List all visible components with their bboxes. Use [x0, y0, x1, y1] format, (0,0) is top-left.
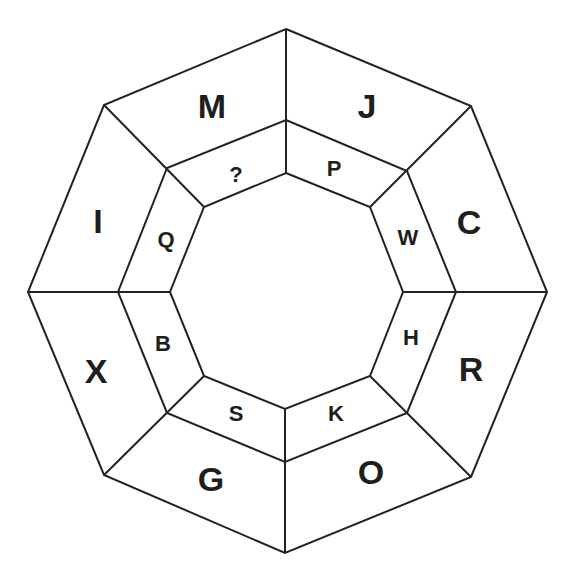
inner-cell-left-upper: Q — [157, 227, 174, 252]
outer-cell-top-right: J — [358, 87, 377, 125]
inner-cell-bottom-right: K — [328, 401, 344, 426]
inner-cell-top-left-missing: ? — [229, 162, 242, 187]
inner-cell-top-right: P — [327, 156, 342, 181]
outer-cell-left-upper: I — [93, 202, 102, 240]
outer-cell-left-lower: X — [85, 352, 108, 390]
inner-cell-right-lower: H — [403, 325, 419, 350]
inner-octagon — [170, 173, 403, 409]
inner-cell-bottom-left: S — [229, 401, 244, 426]
octagon-puzzle-diagram: M J C R O G X I ? P W H K S B Q — [0, 0, 577, 574]
outer-cell-bottom-right: O — [358, 453, 384, 491]
outer-cell-right-lower: R — [459, 350, 484, 388]
outer-cell-bottom-left: G — [198, 460, 224, 498]
radial-dividers — [28, 29, 547, 553]
inner-cell-left-lower: B — [155, 331, 171, 356]
inner-cell-right-upper: W — [398, 225, 419, 250]
outer-cell-right-upper: C — [457, 203, 482, 241]
outer-cell-top-left: M — [198, 87, 226, 125]
